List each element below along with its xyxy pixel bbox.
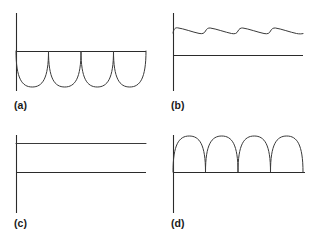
waveform-figure: (a) (b) (c) (d) (0, 0, 314, 244)
panel-b-label: (b) (171, 100, 185, 111)
panel-a-label: (a) (14, 100, 27, 111)
panel-b-waveform (173, 28, 303, 34)
panel-a-waveform (16, 51, 146, 87)
panel-c: (c) (0, 122, 157, 244)
panel-c-label: (c) (14, 218, 27, 229)
panel-d: (d) (157, 122, 314, 244)
panel-d-label: (d) (171, 218, 185, 229)
panel-b: (b) (157, 0, 314, 122)
panel-d-waveform (173, 136, 303, 172)
panel-a: (a) (0, 0, 157, 122)
